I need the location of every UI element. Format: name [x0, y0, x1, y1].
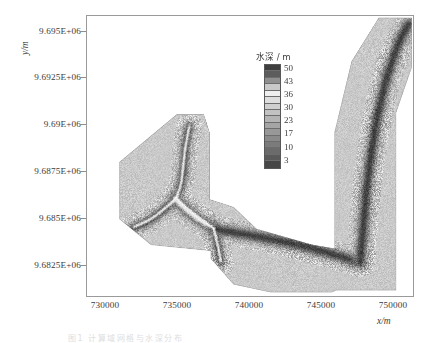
x-tick-label: 735000	[163, 300, 191, 310]
legend-title: 水深 / m	[256, 50, 311, 62]
x-tick-label: 740000	[235, 300, 263, 310]
plot-area	[86, 15, 414, 297]
colorbar-tick-label: 23	[284, 116, 293, 125]
x-tick-label: 745000	[307, 300, 335, 310]
colorbar-tick-label: 36	[284, 90, 293, 99]
y-tick-label: 9.695E+06	[39, 26, 81, 36]
colorbar-tick-label: 10	[284, 142, 293, 151]
y-tick-label: 9.685E+06	[39, 213, 81, 223]
colorbar-tick-label: 43	[284, 77, 293, 86]
y-tick-label: 9.6875E+06	[34, 166, 81, 176]
colorbar-tick-label: 3	[284, 155, 289, 164]
colorbar-tick-label: 50	[284, 63, 293, 72]
colorbar-tick-label: 17	[284, 129, 293, 138]
y-axis-title: y/m	[20, 41, 30, 55]
colorbar-band	[265, 161, 280, 167]
colorbar-wrap: 504336302317103	[264, 64, 311, 169]
colorbar-tick-label: 30	[284, 103, 293, 112]
colorbar	[264, 64, 281, 169]
figure-caption: 图1 计算域网格与水深分布	[68, 332, 368, 343]
y-tick-label: 9.69E+06	[44, 119, 81, 129]
x-axis-title: x/m	[377, 316, 391, 326]
y-tick-label: 9.6925E+06	[34, 72, 81, 82]
x-tick-label: 750000	[379, 300, 407, 310]
x-tick-label: 730000	[91, 300, 119, 310]
colorbar-labels: 504336302317103	[284, 64, 310, 169]
bathymetry-mesh-canvas	[87, 16, 413, 296]
figure-container: 9.695E+06 9.6925E+06 9.69E+06 9.6875E+06…	[0, 0, 429, 343]
depth-legend: 水深 / m 504336302317103	[255, 50, 311, 169]
y-tick-label: 9.6825E+06	[34, 260, 81, 270]
